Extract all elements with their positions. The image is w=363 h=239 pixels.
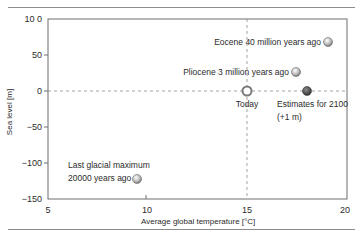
y-axis-label: Sea level [m] xyxy=(5,89,14,135)
point-eocene xyxy=(324,38,333,47)
x-axis-label: Average global temperature [°C] xyxy=(141,217,255,226)
label-2100-line2: (+1 m) xyxy=(277,112,302,122)
label-pliocene: Pliocene 3 million years ago xyxy=(183,67,289,77)
x-tick-labels: 5 10 15 20 xyxy=(45,205,350,215)
x-tick-15: 15 xyxy=(242,205,252,215)
x-tick-5: 5 xyxy=(45,205,50,215)
y-tick-neg150: −150 xyxy=(22,194,42,204)
label-2100-line1: Estimates for 2100 xyxy=(277,99,348,109)
label-lgm-line2: 20000 years ago xyxy=(68,173,132,183)
y-tick-labels: 10 0 50 0 −50 −100 −150 xyxy=(22,14,42,204)
label-eocene: Eocene 40 million years ago xyxy=(214,37,321,47)
point-2100-estimate xyxy=(303,87,312,96)
label-lgm-line1: Last glacial maximum xyxy=(68,160,150,170)
y-tick-0: 0 xyxy=(37,86,42,96)
x-tick-20: 20 xyxy=(340,205,350,215)
y-tick-50: 50 xyxy=(32,50,42,60)
point-today xyxy=(243,87,252,96)
point-pliocene xyxy=(292,68,301,77)
label-today: Today xyxy=(236,99,259,109)
annotations: Eocene 40 million years ago Pliocene 3 m… xyxy=(68,37,348,183)
y-tick-neg100: −100 xyxy=(22,158,42,168)
y-tick-100: 10 0 xyxy=(24,14,42,24)
scatter-chart: 10 0 50 0 −50 −100 −150 5 10 15 20 Avera… xyxy=(0,0,363,239)
x-tick-10: 10 xyxy=(142,205,152,215)
y-axis xyxy=(44,55,48,163)
point-last-glacial-maximum xyxy=(133,175,142,184)
y-tick-neg50: −50 xyxy=(27,122,42,132)
